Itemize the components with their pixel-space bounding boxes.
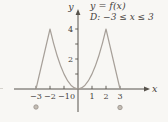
x-axis-label: x [152,83,158,94]
graph-canvas: y y = f(x) D: −3 ≤ x ≤ 3 x 4 2 −3 −2 −1 … [0,0,168,122]
endpoint-dot-left [34,105,38,109]
function-graph-figure: y y = f(x) D: −3 ≤ x ≤ 3 x 4 2 −3 −2 −1 … [0,0,168,122]
y-axis-label: y [67,1,74,12]
domain-label: D: −3 ≤ x ≤ 3 [89,12,154,22]
x-tick-label-1: 1 [89,92,94,101]
y-tick-label-4: 4 [68,25,73,34]
endpoint-dot-right [118,105,122,109]
x-tick-label-0: 0 [70,92,75,101]
x-tick-label-2: 2 [103,92,108,101]
y-tick-label-2: 2 [68,55,73,64]
y-axis-arrow-icon [76,9,81,15]
x-axis-arrow-icon [144,87,150,92]
x-tick-label-neg2: −2 [44,92,56,101]
x-tick-label-neg1: −1 [58,92,70,101]
figure-title: y = f(x) [89,0,126,11]
x-tick-label-neg3: −3 [30,92,42,101]
x-tick-label-3: 3 [117,92,122,101]
